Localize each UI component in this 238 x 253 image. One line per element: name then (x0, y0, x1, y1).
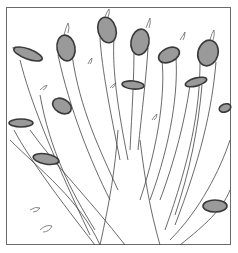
cut-end (32, 152, 59, 166)
cut-end (184, 75, 207, 88)
cut-end (156, 44, 182, 66)
cut-end (50, 95, 74, 117)
cut-end (95, 15, 119, 45)
tree-pruning-illustration (0, 0, 238, 253)
cut-end (55, 34, 77, 63)
cut-end (203, 200, 227, 212)
cut-end (122, 80, 145, 90)
cut-end (218, 102, 232, 114)
cut-end (9, 119, 33, 127)
cut-end (12, 44, 44, 64)
branch-lines (10, 38, 230, 245)
cut-end (195, 38, 221, 68)
